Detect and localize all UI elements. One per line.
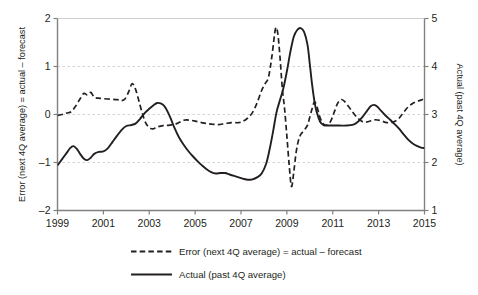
- chart-figure: –2–1012123451999200120032005200720092011…: [0, 0, 478, 295]
- y2-tick-label: 2: [432, 156, 438, 168]
- legend-label: Error (next 4Q average) = actual – forec…: [179, 246, 362, 257]
- legend-label: Actual (past 4Q average): [179, 269, 286, 280]
- tick-marks: [54, 19, 429, 215]
- x-tick-label: 2005: [183, 217, 207, 229]
- y-tick-label: –2: [39, 204, 51, 216]
- x-tick-label: 2009: [275, 217, 299, 229]
- y-tick-label: 2: [45, 12, 51, 24]
- x-tick-label: 2015: [413, 217, 437, 229]
- line-chart: –2–1012123451999200120032005200720092011…: [0, 0, 478, 295]
- y2-tick-label: 5: [432, 12, 438, 24]
- y-tick-label: 1: [45, 60, 51, 72]
- right-axis-title: Actual (past 4Q average): [455, 63, 465, 165]
- chart-legend: Error (next 4Q average) = actual – forec…: [131, 246, 362, 280]
- x-tick-label: 2007: [229, 217, 253, 229]
- left-axis-title: Error (next 4Q average) = actual – forec…: [17, 27, 27, 202]
- y2-tick-label: 3: [432, 108, 438, 120]
- series-line-actual: [58, 28, 425, 180]
- x-tick-label: 1999: [46, 217, 70, 229]
- y2-tick-label: 4: [432, 60, 438, 72]
- x-tick-label: 2011: [321, 217, 344, 229]
- x-tick-label: 2003: [138, 217, 162, 229]
- y-tick-label: –1: [39, 156, 51, 168]
- x-tick-label: 2013: [367, 217, 391, 229]
- y-tick-label: 0: [45, 108, 51, 120]
- x-tick-label: 2001: [92, 217, 116, 229]
- grid-lines: [58, 67, 425, 163]
- y2-tick-label: 1: [432, 204, 438, 216]
